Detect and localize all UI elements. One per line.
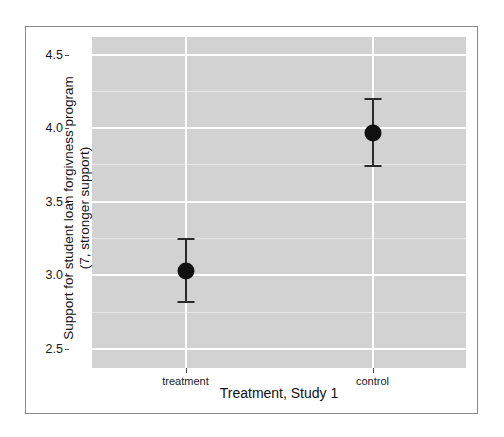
errorbar-cap-upper bbox=[364, 98, 381, 100]
gridline-major-horizontal bbox=[92, 274, 466, 276]
gridline-major-horizontal bbox=[92, 348, 466, 350]
gridline-minor-horizontal bbox=[92, 238, 466, 239]
errorbar-cap-lower bbox=[364, 165, 381, 167]
figure-frame: 4.54.03.53.02.5 treatmentcontrol Treatme… bbox=[25, 26, 478, 414]
y-axis-title: Support for student loan forgivness prog… bbox=[61, 48, 93, 368]
y-axis-title-line-1: Support for student loan forgivness prog… bbox=[61, 48, 77, 368]
data-point[interactable] bbox=[364, 124, 381, 141]
plot-panel bbox=[92, 37, 466, 368]
gridline-minor-horizontal bbox=[92, 91, 466, 92]
gridline-major-horizontal bbox=[92, 54, 466, 56]
gridline-minor-horizontal bbox=[92, 312, 466, 313]
x-tick-mark bbox=[186, 368, 187, 373]
x-tick-mark bbox=[373, 368, 374, 373]
errorbar-cap-lower bbox=[177, 301, 194, 303]
gridline-major-horizontal bbox=[92, 201, 466, 203]
x-axis-title: Treatment, Study 1 bbox=[92, 385, 466, 401]
gridline-major-vertical bbox=[372, 37, 374, 368]
y-axis-title-line-2: (7, stronger support) bbox=[77, 48, 93, 368]
y-axis-ticks: 4.54.03.53.02.5 bbox=[26, 27, 63, 413]
data-point[interactable] bbox=[177, 262, 194, 279]
gridline-major-horizontal bbox=[92, 127, 466, 129]
errorbar-cap-upper bbox=[177, 238, 194, 240]
gridline-major-vertical bbox=[185, 37, 187, 368]
gridline-minor-horizontal bbox=[92, 164, 466, 165]
